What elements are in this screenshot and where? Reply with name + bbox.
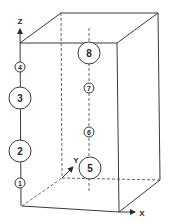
y-axis xyxy=(62,167,73,178)
svg-text:4: 4 xyxy=(18,64,22,71)
sphere-2: 2 xyxy=(9,140,31,162)
sphere-6: 6 xyxy=(84,127,94,137)
svg-text:6: 6 xyxy=(87,129,91,136)
bottom-right-depth-edge xyxy=(119,180,160,212)
svg-text:3: 3 xyxy=(17,93,23,104)
z-axis-label: Z xyxy=(18,17,23,26)
bottom-front-edge xyxy=(22,206,119,212)
sphere-8: 8 xyxy=(78,42,100,64)
svg-text:2: 2 xyxy=(17,146,23,157)
sphere-3: 3 xyxy=(9,87,31,109)
svg-text:1: 1 xyxy=(18,180,22,187)
x-axis-label: X xyxy=(139,209,145,218)
box-diagram: Z X Y 4 3 2 1 8 7 6 5 xyxy=(0,0,171,224)
sphere-5: 5 xyxy=(79,157,101,179)
top-right-depth-edge xyxy=(117,13,158,43)
front-right-vertical-edge xyxy=(117,43,119,212)
svg-text:7: 7 xyxy=(87,85,91,92)
sphere-7: 7 xyxy=(84,83,94,93)
back-left-vertical-edge xyxy=(61,13,62,178)
back-bottom-edge xyxy=(62,178,160,180)
back-right-vertical-edge xyxy=(158,13,160,180)
sphere-1: 1 xyxy=(15,178,25,188)
top-left-depth-edge xyxy=(20,13,61,43)
svg-text:5: 5 xyxy=(87,163,93,174)
bottom-left-depth-edge xyxy=(22,178,62,206)
svg-text:8: 8 xyxy=(86,48,92,59)
y-axis-label: Y xyxy=(73,156,79,165)
sphere-4: 4 xyxy=(15,62,25,72)
